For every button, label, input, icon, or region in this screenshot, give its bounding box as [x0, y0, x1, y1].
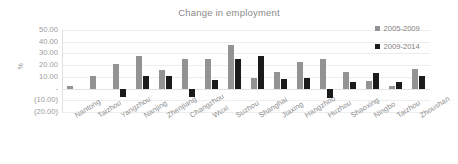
bar-2009-2014-hangzhou[interactable]: [304, 78, 310, 89]
bar-2009-2014-jiaxing[interactable]: [281, 79, 287, 88]
y-axis-tick-6: (10.00): [0, 96, 58, 104]
bar-2005-2009-jiaxing[interactable]: [274, 72, 280, 89]
y-axis-tick-4: 10.00: [0, 73, 58, 81]
legend-label: 2005-2009: [384, 24, 420, 33]
bar-2009-2014-shaoxing[interactable]: [350, 82, 356, 88]
bar-2009-2014-ningbo[interactable]: [373, 73, 379, 89]
bar-2005-2009-huzhou[interactable]: [320, 59, 326, 88]
y-axis-tick-2: 30.00: [0, 49, 58, 57]
legend-swatch-icon: [375, 44, 380, 49]
chart-legend: 2005-20092009-2014: [375, 24, 455, 60]
bar-2005-2009-taizhou[interactable]: [90, 76, 96, 89]
bar-2005-2009-zhoushan[interactable]: [412, 69, 418, 88]
bar-2005-2009-yangzhou[interactable]: [113, 64, 119, 89]
bar-group: [62, 30, 85, 112]
bar-2009-2014-yangzhou[interactable]: [120, 89, 126, 97]
legend-item-2005-2009[interactable]: 2005-2009: [375, 24, 455, 33]
bar-2005-2009-nantong[interactable]: [67, 86, 73, 88]
bar-2005-2009-hangzhou[interactable]: [297, 62, 303, 89]
bar-2009-2014-shanghai[interactable]: [258, 56, 264, 88]
employment-change-chart: Change in employment % 50.0040.0030.0020…: [0, 0, 458, 164]
bar-2009-2014-wuxi[interactable]: [212, 80, 218, 89]
bar-2005-2009-ningbo[interactable]: [366, 81, 372, 89]
bar-group: [223, 30, 246, 112]
bar-2005-2009-changzhou[interactable]: [182, 59, 188, 89]
y-axis-tick-5: -: [0, 85, 58, 93]
bar-2005-2009-wuxi[interactable]: [205, 59, 211, 89]
y-axis-tick-7: (20.00): [0, 108, 58, 116]
bar-2005-2009-nanjing[interactable]: [136, 56, 142, 89]
bar-group: [246, 30, 269, 112]
bar-2009-2014-nanjing[interactable]: [143, 76, 149, 89]
legend-item-2009-2014[interactable]: 2009-2014: [375, 42, 455, 51]
bar-group: [292, 30, 315, 112]
bar-2005-2009-taizhou[interactable]: [389, 86, 395, 88]
chart-title: Change in employment: [0, 7, 458, 18]
bar-2005-2009-shaoxing[interactable]: [343, 72, 349, 89]
bar-2009-2014-zhenjiang[interactable]: [166, 76, 172, 89]
bar-2009-2014-zhoushan[interactable]: [419, 76, 425, 89]
bar-2009-2014-taizhou[interactable]: [396, 82, 402, 89]
bar-2005-2009-suzhou[interactable]: [228, 45, 234, 88]
legend-label: 2009-2014: [384, 42, 420, 51]
bar-2005-2009-zhenjiang[interactable]: [159, 70, 165, 89]
legend-swatch-icon: [375, 26, 380, 31]
y-axis-tick-1: 40.00: [0, 38, 58, 46]
bar-group: [154, 30, 177, 112]
y-axis-tick-3: 20.00: [0, 61, 58, 69]
x-axis-tick-labels: NantongTaizhouYangzhouNanjingZhenjiangCh…: [62, 112, 430, 164]
bar-2009-2014-suzhou[interactable]: [235, 59, 241, 89]
y-axis-tick-0: 50.00: [0, 26, 58, 34]
y-axis-tick-labels: 50.0040.0030.0020.0010.00-(10.00)(20.00): [0, 30, 58, 112]
bar-2005-2009-shanghai[interactable]: [251, 78, 257, 89]
